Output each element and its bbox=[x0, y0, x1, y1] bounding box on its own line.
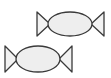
ellipse-body-top bbox=[48, 12, 92, 36]
bowtie-diagram-svg bbox=[0, 0, 111, 78]
diagram-canvas bbox=[0, 0, 111, 78]
ellipse-body-bottom bbox=[16, 46, 60, 72]
